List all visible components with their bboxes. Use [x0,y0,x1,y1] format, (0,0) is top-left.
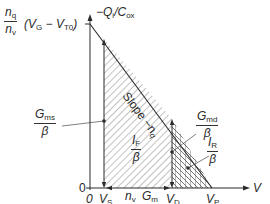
vs-label: VS [99,193,112,204]
nv-over-nq-fraction: nv nq [124,190,137,204]
gm-sub: m [151,195,158,204]
vs-v: V [99,192,107,204]
if-sub: F [135,139,140,148]
y-zero-label: 0 [79,182,86,194]
gms-g: G [35,107,44,121]
vp-v: V [206,192,214,204]
cox-sub: ox [126,11,134,20]
gms-leader [62,121,104,126]
gmd-g: G [197,109,206,123]
if-over-beta: IF β [131,134,141,163]
y-axis-title: −Qi/Cox [96,6,135,20]
nq-over-nv-fraction: nq nv [4,6,17,37]
vp-label: VP [206,193,219,204]
cox-label: /C [114,5,126,19]
expr-b-sub: T0 [64,23,73,32]
ir-beta: β [209,152,216,165]
y-axis-arrow [88,14,93,21]
x-axis-arrow [243,186,250,191]
qi-label: −Q [96,5,112,19]
nv-sub: v [12,28,16,37]
nv-sub-x: v [132,195,136,204]
gms-sub: ms [44,113,55,122]
gm-g: G [142,189,151,203]
vp-sub: P [214,198,219,204]
nq-label: n [5,5,12,19]
x-origin-label: 0 [86,193,93,204]
ir-sub: R [211,141,217,150]
vs-sub: S [107,198,112,204]
nv-label: n [5,22,12,36]
vd-label: VD [166,193,180,204]
vg-minus-vt0-label: (VG − VT0) [24,18,77,32]
ir-over-beta: IR β [207,136,218,165]
if-beta: β [133,150,140,163]
expr-c: ) [73,17,77,31]
expr-b: − V [42,17,64,31]
vd-sub: D [174,198,180,204]
vd-v: V [166,192,174,204]
nq-sub: q [12,11,16,20]
gms-beta: β [42,124,49,137]
gmd-sub: md [206,115,217,124]
nv-n: n [125,189,132,203]
expr-a: (V [24,17,36,31]
gm-over-beta: Gm β [141,190,159,204]
x-axis-title: V [253,182,261,194]
gms-over-beta: Gms β [34,108,56,137]
